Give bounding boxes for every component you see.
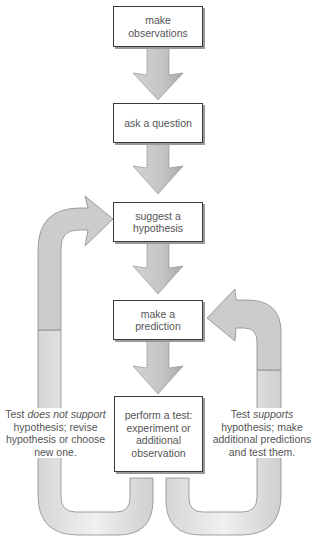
- step-text: make: [128, 14, 188, 27]
- step-text: ask a question: [124, 117, 192, 130]
- step-text: hypothesis: [133, 222, 183, 235]
- step-text: make a: [135, 308, 181, 321]
- step-text: additional: [125, 434, 193, 447]
- down-arrow-icon: [133, 340, 183, 394]
- left-loop-arrow-icon: [38, 196, 113, 330]
- step-ask-question: ask a question: [113, 103, 203, 143]
- right-loop-note-line: hypothesis; make: [209, 421, 315, 434]
- left-loop-note-line: new one.: [4, 446, 107, 459]
- left-loop-note: Test does not support hypothesis; revise…: [4, 408, 107, 458]
- right-loop-note-line: additional predictions: [209, 433, 315, 446]
- left-loop-note-line: hypothesis or choose: [4, 433, 107, 446]
- step-make-observations: make observations: [113, 6, 203, 47]
- right-loop-emphasis: supports: [253, 408, 293, 420]
- step-text: experiment or: [125, 422, 193, 435]
- down-arrow-icon: [133, 242, 183, 294]
- down-arrow-icon: [133, 47, 183, 100]
- right-loop-note: Test supports hypothesis; make additiona…: [209, 408, 315, 458]
- right-loop-arrow-icon: [207, 289, 281, 370]
- step-suggest-hypothesis: suggest a hypothesis: [113, 202, 203, 242]
- step-text: observation: [125, 447, 193, 460]
- left-loop-note-line: hypothesis; revise: [4, 421, 107, 434]
- right-loop-note-line: Test supports: [209, 408, 315, 421]
- step-text: observations: [128, 27, 188, 40]
- left-loop-emphasis: does not support: [27, 408, 105, 420]
- step-perform-test: perform a test: experiment or additional…: [114, 396, 203, 472]
- down-arrow-icon: [133, 143, 183, 194]
- step-make-prediction: make a prediction: [113, 300, 203, 340]
- step-text: suggest a: [133, 210, 183, 223]
- left-loop-note-line: Test does not support: [4, 408, 107, 421]
- step-text: prediction: [135, 320, 181, 333]
- step-text: perform a test:: [125, 409, 193, 422]
- right-loop-note-line: and test them.: [209, 446, 315, 459]
